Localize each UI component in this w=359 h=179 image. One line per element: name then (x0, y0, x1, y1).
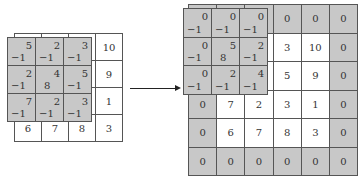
grid-cell: 0 (302, 5, 330, 34)
kernel-cell: 2−1 (8, 66, 36, 94)
arrow-icon (130, 88, 176, 89)
kernel-cell: 58 (212, 38, 240, 67)
kernel-cell: 0−1 (212, 9, 240, 38)
kernel-weight: −1 (67, 52, 82, 63)
grid-cell: 0 (330, 91, 358, 120)
kernel-cell: 2−1 (240, 38, 268, 67)
grid-cell: 5 (274, 62, 302, 91)
cell-value: 0 (230, 11, 236, 22)
cell-value: 0 (258, 11, 264, 22)
grid-cell: 3 (302, 119, 330, 148)
grid-cell: 0 (330, 119, 358, 148)
kernel-weight: −1 (11, 108, 26, 119)
kernel-weight: −1 (215, 81, 230, 92)
grid-cell: 0 (274, 148, 302, 177)
kernel-weight: −1 (67, 108, 82, 119)
kernel-weight: −1 (39, 108, 54, 119)
grid-cell: 7 (245, 119, 273, 148)
cell-value: 5 (26, 40, 32, 51)
cell-value: 3 (82, 96, 88, 107)
kernel-weight: −1 (243, 81, 258, 92)
kernel-cell: 3−1 (64, 94, 92, 122)
kernel-weight: 8 (44, 80, 50, 91)
kernel-overlay-left: 5−12−13−12−1485−17−12−13−1 (7, 37, 92, 122)
grid-cell: 0 (302, 148, 330, 177)
kernel-cell: 4−1 (240, 66, 268, 95)
grid-cell: 0 (217, 148, 245, 177)
kernel-cell: 5−1 (64, 66, 92, 94)
kernel-cell: 7−1 (8, 94, 36, 122)
cell-value: 5 (230, 40, 236, 51)
grid-cell: 0 (330, 62, 358, 91)
grid-cell: 0 (330, 34, 358, 63)
cell-value: 2 (54, 40, 60, 51)
grid-cell: 10 (302, 34, 330, 63)
kernel-overlay-right: 0−10−10−10−1582−10−12−14−1 (183, 8, 268, 95)
grid-cell: 10 (96, 34, 123, 61)
kernel-cell: 0−1 (184, 66, 212, 95)
cell-value: 0 (202, 68, 208, 79)
grid-cell: 0 (245, 148, 273, 177)
cell-value: 7 (26, 96, 32, 107)
grid-cell: 9 (302, 62, 330, 91)
cell-value: 5 (82, 68, 88, 79)
kernel-cell: 48 (36, 66, 64, 94)
grid-cell: 8 (274, 119, 302, 148)
cell-value: 2 (54, 96, 60, 107)
kernel-cell: 5−1 (8, 38, 36, 66)
kernel-cell: 0−1 (184, 9, 212, 38)
cell-value: 0 (202, 11, 208, 22)
cell-value: 2 (26, 68, 32, 79)
grid-cell: 0 (274, 5, 302, 34)
grid-cell: 0 (189, 91, 217, 120)
kernel-weight: −1 (39, 52, 54, 63)
cell-value: 0 (202, 40, 208, 51)
kernel-cell: 0−1 (240, 9, 268, 38)
kernel-weight: −1 (243, 24, 258, 35)
kernel-weight: −1 (11, 80, 26, 91)
cell-value: 2 (230, 68, 236, 79)
grid-cell: 0 (189, 148, 217, 177)
grid-cell: 1 (302, 91, 330, 120)
kernel-cell: 2−1 (36, 38, 64, 66)
cell-value: 4 (258, 68, 264, 79)
kernel-cell: 3−1 (64, 38, 92, 66)
kernel-cell: 2−1 (212, 66, 240, 95)
kernel-weight: −1 (243, 52, 258, 63)
grid-cell: 0 (189, 119, 217, 148)
grid-cell: 1 (96, 88, 123, 115)
kernel-weight: −1 (215, 24, 230, 35)
grid-cell: 0 (330, 5, 358, 34)
kernel-weight: −1 (11, 52, 26, 63)
grid-cell: 9 (96, 61, 123, 88)
grid-cell: 2 (245, 91, 273, 120)
grid-cell: 3 (274, 91, 302, 120)
kernel-weight: −1 (187, 24, 202, 35)
kernel-weight: 8 (220, 52, 226, 63)
kernel-weight: −1 (67, 80, 82, 91)
cell-value: 2 (258, 40, 264, 51)
kernel-cell: 2−1 (36, 94, 64, 122)
kernel-cell: 0−1 (184, 38, 212, 67)
cell-value: 3 (82, 40, 88, 51)
grid-cell: 6 (217, 119, 245, 148)
grid-cell: 0 (330, 148, 358, 177)
grid-cell: 3 (274, 34, 302, 63)
kernel-weight: −1 (187, 81, 202, 92)
grid-cell: 7 (217, 91, 245, 120)
kernel-weight: −1 (187, 52, 202, 63)
cell-value: 4 (54, 68, 60, 79)
grid-cell: 3 (96, 115, 123, 142)
